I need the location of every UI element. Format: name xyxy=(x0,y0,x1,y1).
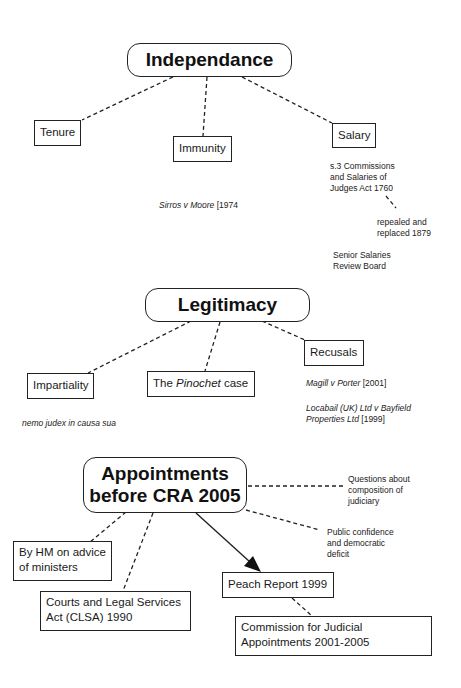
branch-peach-report: Peach Report 1999 xyxy=(222,572,334,598)
note-salaries-act: s.3 Commissions and Salaries of Judges A… xyxy=(330,161,395,194)
link-salary-repealed xyxy=(386,196,396,208)
link-independence-immunity xyxy=(203,77,207,136)
link-legitimacy-impartiality xyxy=(88,321,191,373)
branch-clsa-1990: Courts and Legal Services Act (CLSA) 199… xyxy=(40,591,191,631)
branch-immunity: Immunity xyxy=(173,136,232,162)
branch-impartiality: Impartiality xyxy=(27,373,94,399)
hub-independence-title: Independance xyxy=(146,49,274,71)
link-independence-tenure xyxy=(82,77,173,120)
link-peach-commission xyxy=(292,598,312,616)
link-appointments-hm xyxy=(90,512,126,542)
note-senior-salaries-board: Senior Salaries Review Board xyxy=(333,250,391,272)
branch-salary: Salary xyxy=(332,123,376,148)
hub-appointments-title-line1: Appointments xyxy=(101,463,229,485)
link-appointments-clsa xyxy=(123,513,153,591)
note-repealed: repealed and replaced 1879 xyxy=(377,217,431,239)
note-questions-composition: Questions about composition of judiciary xyxy=(348,474,410,507)
branch-by-hm-advice: By HM on advice of ministers xyxy=(13,541,112,581)
link-legitimacy-pinochet xyxy=(205,322,220,371)
branch-tenure: Tenure xyxy=(34,120,81,146)
hub-appointments-title-line2: before CRA 2005 xyxy=(89,485,240,507)
case-locabail: Locabail (UK) Ltd v Bayfield Properties … xyxy=(306,403,411,425)
note-public-confidence: Public confidence and democratic deficit xyxy=(327,527,394,560)
case-magill-v-porter: Magill v Porter [2001] xyxy=(306,378,386,390)
case-sirros-v-moore: Sirros v Moore [1974 xyxy=(159,200,238,212)
link-appointments-public xyxy=(246,510,320,530)
link-legitimacy-recusals xyxy=(262,321,305,340)
branch-pinochet-case: The Pinochet case xyxy=(147,371,255,397)
arrow-appointments-peach xyxy=(196,513,261,572)
maxim-nemo-judex: nemo judex in causa sua xyxy=(22,418,116,430)
branch-recusals: Recusals xyxy=(304,340,364,366)
hub-appointments: Appointments before CRA 2005 xyxy=(83,457,247,513)
hub-independence: Independance xyxy=(127,43,292,77)
hub-legitimacy-title: Legitimacy xyxy=(178,294,277,316)
branch-commission-judicial-appointments: Commission for Judicial Appointments 200… xyxy=(235,616,432,656)
link-independence-salary xyxy=(242,77,332,123)
hub-legitimacy: Legitimacy xyxy=(145,288,310,322)
